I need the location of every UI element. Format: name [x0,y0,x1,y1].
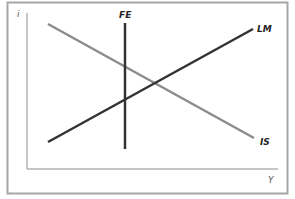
is-label: IS [260,137,270,147]
outer-frame [8,3,288,194]
fe-label: FE [119,10,132,20]
is-lm-fe-diagram: i Y FE LM IS [0,0,295,199]
lm-label: LM [257,24,272,34]
